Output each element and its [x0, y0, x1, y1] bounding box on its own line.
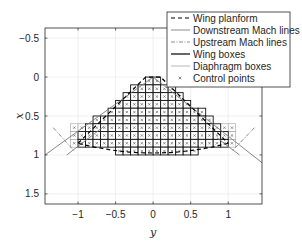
legend-label: Wing planform — [193, 13, 257, 24]
x-axis-label: y — [149, 226, 157, 239]
legend-label: Wing boxes — [193, 49, 245, 60]
y-tick-label: 0 — [33, 72, 39, 83]
x-tick-label: 0.5 — [184, 209, 198, 220]
plot-area — [45, 77, 262, 163]
legend-label: Downstream Mach lines — [193, 25, 300, 36]
x-tick-label: 1 — [225, 209, 231, 220]
y-tick-label: −0.5 — [19, 33, 39, 44]
y-tick-label: 1 — [33, 149, 39, 160]
x-tick-label: −1 — [72, 209, 84, 220]
wing-box-chart: −1−0.500.51 −0.500.511.5 y x Wing planfo… — [0, 0, 302, 247]
legend-label: Diaphragm boxes — [193, 61, 271, 72]
legend-label: Control points — [193, 73, 255, 84]
y-tick-label: 1.5 — [25, 188, 39, 199]
x-tick-label: −0.5 — [106, 209, 126, 220]
legend-label: Upstream Mach lines — [193, 37, 287, 48]
y-tick-label: 0.5 — [25, 111, 39, 122]
x-tick-label: 0 — [150, 209, 156, 220]
y-axis-label: x — [13, 112, 26, 119]
legend: Wing planformDownstream Mach linesUpstre… — [167, 12, 300, 87]
wing-boxes — [78, 77, 228, 155]
